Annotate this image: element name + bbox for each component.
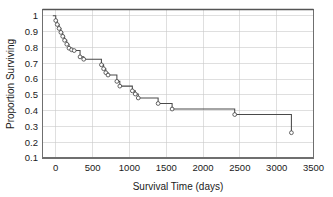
y-axis-tick-labels: 0.10.20.30.40.50.60.70.80.91	[25, 10, 38, 163]
horizontal-gridlines	[43, 16, 314, 142]
x-axis-title: Survival Time (days)	[133, 181, 224, 192]
event-marker	[136, 96, 140, 100]
x-tick-label: 500	[85, 162, 101, 173]
event-marker	[102, 67, 106, 71]
y-tick-label: 0.4	[25, 105, 38, 116]
event-marker	[100, 63, 104, 67]
x-tick-label: 0	[53, 162, 58, 173]
y-tick-label: 0.8	[25, 42, 38, 53]
event-marker	[78, 55, 82, 59]
event-marker	[65, 42, 69, 46]
x-tick-label: 2000	[192, 162, 213, 173]
event-marker	[156, 102, 160, 106]
event-marker	[63, 38, 67, 42]
event-marker	[106, 73, 110, 77]
event-marker	[55, 23, 59, 27]
event-marker	[170, 107, 174, 111]
y-tick-label: 0.6	[25, 73, 38, 84]
event-marker	[130, 89, 134, 93]
event-marker	[133, 92, 137, 96]
y-tick-label: 0.1	[25, 152, 38, 163]
y-tick-label: 0.7	[25, 58, 38, 69]
event-marker	[72, 49, 76, 53]
event-marker	[290, 131, 294, 135]
event-marker	[54, 19, 58, 23]
y-axis-title: Proportion Surviving	[5, 39, 16, 129]
y-tick-label: 0.5	[25, 89, 38, 100]
x-tick-label: 1000	[119, 162, 140, 173]
event-marker	[233, 113, 237, 117]
x-tick-label: 3000	[266, 162, 287, 173]
kaplan-meier-chart: 0.10.20.30.40.50.60.70.80.91 05001000150…	[0, 0, 333, 197]
event-marker	[61, 34, 65, 38]
survival-curve-figure: 0.10.20.30.40.50.60.70.80.91 05001000150…	[0, 0, 333, 197]
x-axis-tick-labels: 0500100015002000250030003500	[53, 162, 324, 173]
event-marker	[115, 79, 119, 83]
y-tick-label: 0.3	[25, 121, 38, 132]
event-marker	[82, 57, 86, 61]
event-marker	[118, 84, 122, 88]
event-marker	[57, 27, 61, 31]
x-tick-label: 1500	[156, 162, 177, 173]
y-tick-label: 0.2	[25, 137, 38, 148]
y-tick-label: 1	[33, 10, 38, 21]
x-tick-label: 3500	[303, 162, 324, 173]
survival-event-markers	[54, 19, 293, 135]
survival-step-line	[53, 16, 292, 133]
y-tick-label: 0.9	[25, 26, 38, 37]
x-tick-label: 2500	[229, 162, 250, 173]
event-marker	[59, 31, 63, 35]
